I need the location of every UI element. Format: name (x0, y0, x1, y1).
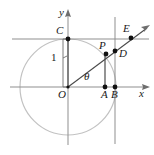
point-label-D: D (119, 48, 127, 59)
point-O-dot (66, 85, 69, 88)
y-axis-arrowhead (65, 9, 71, 17)
point-label-B: B (111, 89, 118, 100)
point-C-dot (66, 37, 71, 42)
geometry-figure: y x O C E P D A B 1 θ (0, 0, 154, 155)
point-E-dot (129, 36, 134, 41)
point-label-C: C (56, 25, 63, 36)
measure-bracket-mid-tick (63, 56, 67, 58)
figure-canvas (0, 0, 154, 155)
radius-measure-label: 1 (51, 52, 57, 63)
axis-label-x: x (139, 88, 144, 99)
angle-label-theta: θ (84, 71, 89, 82)
point-label-A: A (101, 89, 108, 100)
axis-label-y: y (59, 7, 64, 18)
terminal-ray (68, 28, 147, 87)
point-D-dot (113, 49, 118, 54)
point-label-P: P (99, 40, 106, 51)
point-label-O: O (58, 89, 66, 100)
point-label-E: E (123, 23, 130, 34)
point-P-dot (104, 52, 109, 57)
